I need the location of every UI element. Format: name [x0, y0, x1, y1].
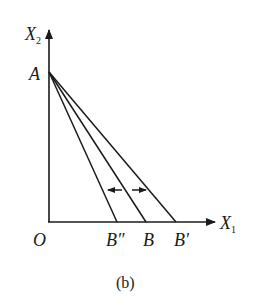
line-a-b-prime [49, 72, 176, 222]
line-a-b [49, 72, 146, 222]
point-b-prime-label: B′ [174, 230, 190, 250]
budget-line-diagram: X2 A O B″ B B′ X1 (b) [0, 0, 258, 307]
point-a-label: A [28, 64, 41, 84]
origin-label: O [33, 230, 46, 250]
figure-caption: (b) [116, 274, 135, 292]
point-b-label: B [143, 230, 154, 250]
x-axis-label: X1 [219, 213, 236, 235]
point-b-double-prime-label: B″ [106, 230, 125, 250]
y-axis-label: X2 [24, 24, 41, 46]
line-a-b-double-prime [49, 72, 117, 222]
